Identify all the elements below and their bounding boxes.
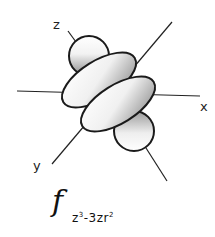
orbital-formula: f z3-3zr2 [52, 186, 63, 216]
z-axis-line-top [68, 31, 76, 42]
subscript-part1: z [72, 211, 79, 225]
y-axis-label: y [33, 158, 41, 173]
orbital-diagram: z x y [0, 0, 215, 237]
formula-main: f [52, 183, 63, 218]
x-axis-label: x [200, 99, 208, 114]
formula-subscript: z3-3zr2 [72, 211, 114, 225]
z-axis-label: z [53, 17, 60, 32]
subscript-part2: -3zr [84, 211, 109, 225]
subscript-sup2: 2 [109, 211, 114, 219]
z-axis-line-bottom [146, 148, 167, 181]
